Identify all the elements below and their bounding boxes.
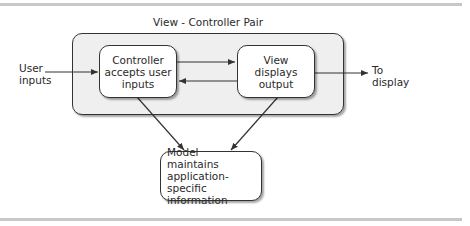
to-display-line: display (372, 76, 409, 88)
model-line: specific information (167, 182, 261, 206)
view-line: View (264, 54, 289, 66)
view-node: View displays output (237, 45, 315, 98)
view-line: displays (255, 66, 298, 78)
user-inputs-line: inputs (19, 74, 51, 86)
user-inputs-line: User (19, 62, 51, 74)
to-display-line: To (372, 64, 409, 76)
controller-line: accepts user (105, 66, 172, 78)
arrow-controller-to-model (137, 97, 184, 150)
controller-line: inputs (122, 78, 154, 90)
user-inputs-label: User inputs (19, 62, 51, 86)
model-line: maintains (167, 158, 219, 170)
model-line: Model (167, 146, 199, 158)
controller-node: Controller accepts user inputs (99, 45, 177, 98)
controller-line: Controller (112, 54, 164, 66)
model-node: Model maintains application- specific in… (160, 151, 262, 201)
to-display-label: To display (372, 64, 409, 88)
arrow-view-to-model (231, 97, 278, 150)
bottom-divider (0, 218, 462, 221)
view-line: output (259, 78, 294, 90)
model-line: application- (167, 170, 229, 182)
